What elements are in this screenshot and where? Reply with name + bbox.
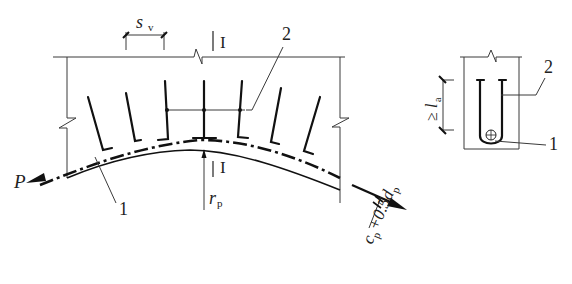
beam-left-edge	[59, 57, 76, 178]
callout-2-label: 2	[282, 24, 291, 44]
tendon-stirrup-diagram: 2 s v I I r p P 1 c p +0.5d p	[0, 0, 572, 284]
section-mark-top: I	[220, 33, 226, 52]
svg-text:l: l	[423, 103, 440, 108]
anchorage-dimension-line	[443, 80, 454, 130]
stirrups	[88, 81, 320, 154]
spacing-sub: v	[148, 21, 154, 33]
callout-leader-2	[246, 47, 283, 110]
section-mark-bottom: I	[220, 158, 226, 177]
elevation-view: 2 s v I I r p P 1 c p +0.5d p	[13, 12, 407, 247]
anchorage-label: ≥ l a	[423, 97, 443, 121]
section-callout-2: 2	[544, 57, 553, 77]
force-label: P	[13, 171, 26, 192]
svg-text:≥: ≥	[423, 112, 440, 121]
callout-1-label: 1	[119, 199, 128, 219]
section-view: 2 1 ≥ l a	[423, 50, 558, 154]
beam-top-edge	[53, 49, 345, 64]
spacing-label: s	[136, 12, 143, 32]
tendon-1	[40, 140, 340, 185]
section-callout-1: 1	[549, 134, 558, 154]
svg-text:a: a	[432, 97, 443, 102]
radius-label: r	[209, 188, 217, 208]
spacing-dimension-line	[126, 32, 164, 50]
force-p-arrow-icon	[26, 173, 46, 183]
beam-right-edge	[332, 57, 349, 203]
radius-sub: p	[217, 197, 223, 209]
